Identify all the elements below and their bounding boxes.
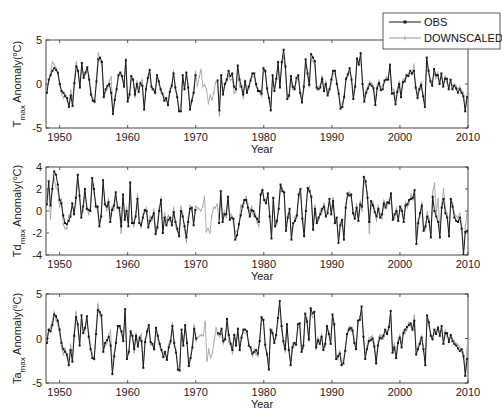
obs-marker [443,198,445,200]
obs-marker [253,351,255,353]
obs-marker [395,103,397,105]
obs-marker [248,345,250,347]
obs-marker [417,97,419,99]
obs-marker [182,74,184,76]
obs-marker [125,59,127,61]
obs-marker [120,330,122,332]
obs-marker [259,340,261,342]
obs-marker [401,210,403,212]
obs-marker [69,216,71,218]
obs-marker [217,332,219,334]
obs-marker [392,352,394,354]
obs-marker [374,211,376,213]
obs-marker [295,77,297,79]
obs-marker [184,225,186,227]
obs-marker [166,359,168,361]
obs-marker [50,205,52,207]
obs-marker [335,358,337,360]
x-tick-label: 2010 [456,258,480,270]
obs-marker [97,309,99,311]
obs-marker [113,355,115,357]
obs-marker [103,96,105,98]
obs-marker [437,221,439,223]
obs-marker [406,203,408,205]
obs-marker [378,82,380,84]
obs-marker [279,87,281,89]
obs-marker [135,335,137,337]
obs-marker [358,64,360,66]
obs-marker [451,88,453,90]
obs-marker [343,96,345,98]
obs-marker [281,190,283,192]
y-axis-title: Tmax Anomaly(oC) [11,41,27,127]
obs-marker [48,180,50,182]
obs-marker [421,205,423,207]
obs-marker [109,221,111,223]
obs-marker [106,339,108,341]
obs-marker [291,346,293,348]
x-tick-label: 1970 [183,258,207,270]
obs-marker [301,351,303,353]
obs-marker [455,345,457,347]
obs-marker [131,335,133,337]
obs-marker [462,254,464,256]
obs-marker [338,93,340,95]
obs-marker [293,342,295,344]
obs-marker [339,224,341,226]
obs-marker [368,221,370,223]
obs-marker [104,342,106,344]
obs-marker [93,358,95,360]
obs-marker [306,321,308,323]
obs-marker [222,221,224,223]
obs-marker [296,214,298,216]
obs-marker [193,328,195,330]
obs-marker [330,343,332,345]
obs-marker [461,228,463,230]
obs-marker [100,314,102,316]
obs-marker [414,189,416,191]
x-tick-label: 1980 [252,131,276,143]
obs-marker [305,58,307,60]
obs-marker [308,84,310,86]
obs-marker [315,346,317,348]
obs-marker [290,75,292,77]
obs-marker [265,202,267,204]
obs-marker [250,346,252,348]
obs-marker [239,79,241,81]
obs-marker [442,86,444,88]
obs-marker [334,222,336,224]
obs-marker [464,231,466,233]
obs-marker [282,340,284,342]
obs-marker [323,90,325,92]
obs-marker [244,80,246,82]
x-tick-label: 2000 [388,131,412,143]
y-tick-label: 0 [36,333,42,345]
obs-marker [352,98,354,100]
obs-marker [84,72,86,74]
obs-marker [462,95,464,97]
obs-marker [270,238,272,240]
obs-marker [406,326,408,328]
obs-marker [350,194,352,196]
obs-marker [341,364,343,366]
obs-marker [388,326,390,328]
obs-marker [99,311,101,313]
obs-marker [404,329,406,331]
obs-marker [140,340,142,342]
obs-marker [312,57,314,59]
obs-marker [382,335,384,337]
obs-marker [281,325,283,327]
obs-marker [112,113,114,115]
obs-marker [407,75,409,77]
obs-marker [283,191,285,193]
obs-marker [90,94,92,96]
obs-marker [260,194,262,196]
obs-marker [388,202,390,204]
legend-obs-label: OBS [424,16,447,28]
obs-marker [180,210,182,212]
obs-marker [417,222,419,224]
obs-marker [405,205,407,207]
obs-marker [341,106,343,108]
obs-marker [365,92,367,94]
obs-marker [77,174,79,176]
